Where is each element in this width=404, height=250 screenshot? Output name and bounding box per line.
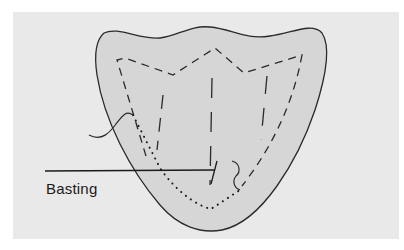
garment-diagram [0, 0, 404, 250]
basting-label: Basting [46, 180, 97, 197]
